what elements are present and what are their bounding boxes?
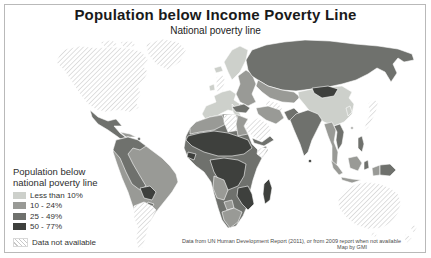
legend-item-10-24: 10 - 24% — [13, 202, 98, 209]
region-ireland — [209, 84, 215, 91]
region-philippines — [358, 136, 364, 152]
page-subtitle: National poverty line — [0, 25, 431, 36]
region-south-africa — [222, 208, 242, 228]
legend-item-lt10: Less than 10% — [13, 192, 98, 199]
region-sri-lanka — [308, 159, 311, 162]
region-madagascar — [263, 179, 272, 204]
legend-title-line2: national poverty line — [13, 177, 98, 188]
source-line2: Map by GMI — [182, 244, 367, 250]
region-united-kingdom — [216, 74, 225, 92]
map-legend: Population below national poverty line L… — [13, 166, 98, 246]
legend-item-no-data: Data not available — [13, 239, 98, 246]
source-note: Data from UN Human Development Report (2… — [182, 238, 401, 250]
legend-label-no-data: Data not available — [32, 238, 96, 247]
legend-item-50-77: 50 - 77% — [13, 223, 98, 230]
legend-swatch-10-24 — [13, 202, 26, 209]
legend-swatch-lt10 — [13, 192, 26, 199]
legend-title-line1: Population below — [13, 166, 98, 177]
legend-item-25-49: 25 - 49% — [13, 213, 98, 220]
legend-swatch-50-77 — [13, 223, 26, 230]
legend-swatch-no-data — [13, 238, 28, 247]
legend-label-25-49: 25 - 49% — [30, 212, 62, 221]
region-java — [341, 177, 361, 183]
legend-label-10-24: 10 - 24% — [30, 201, 62, 210]
region-taiwan — [351, 127, 354, 130]
region-greenland — [146, 39, 186, 70]
region-japan — [364, 99, 378, 131]
region-west-papua — [372, 165, 380, 176]
legend-swatch-25-49 — [13, 213, 26, 220]
region-arctic-islands-west — [100, 40, 118, 48]
region-india — [290, 110, 322, 156]
region-sulawesi — [364, 160, 369, 170]
region-new-zealand-north — [411, 224, 417, 233]
region-north-america — [56, 46, 148, 112]
region-new-zealand-south — [404, 234, 412, 243]
source-line1: Data from UN Human Development Report (2… — [182, 238, 401, 244]
region-russia — [246, 40, 414, 91]
page-title: Population below Income Poverty Line — [0, 6, 431, 23]
region-arctic-islands-east — [120, 41, 136, 48]
region-borneo — [348, 156, 362, 171]
region-iceland — [214, 66, 223, 73]
region-argentina-chile — [134, 202, 156, 248]
region-papua-new-guinea — [380, 164, 396, 176]
region-australia — [338, 182, 401, 229]
title-block: Population below Income Poverty Line Nat… — [0, 6, 431, 36]
legend-label-lt10: Less than 10% — [30, 191, 83, 200]
region-tasmania — [371, 232, 377, 237]
legend-label-50-77: 50 - 77% — [30, 222, 62, 231]
